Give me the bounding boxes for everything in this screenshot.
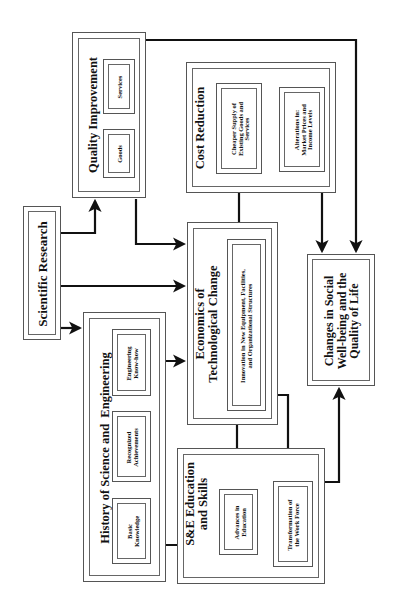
node-goods: Goods bbox=[103, 129, 135, 178]
node-quality-improvement: Quality Improvement Services Goods bbox=[72, 32, 146, 198]
goods-label: Goods bbox=[113, 130, 127, 179]
services-label: Services bbox=[113, 60, 127, 115]
node-alterations: Alterations in: Market Prices and Income… bbox=[279, 87, 325, 172]
advances-education-label: Advances in Education bbox=[221, 490, 260, 556]
node-engineering-knowhow: Engineering Know-how bbox=[112, 329, 151, 396]
node-se-education: S&E Education and Skills Advances in Edu… bbox=[177, 448, 325, 584]
node-economics: Economics of Technological Change Innova… bbox=[187, 222, 278, 425]
innovation-label: Innovation in New Equipment, Facilities,… bbox=[228, 240, 266, 412]
scientific-research-label: Scientific Research bbox=[32, 207, 54, 341]
node-basic-knowledge: Basic Knowledge bbox=[112, 498, 151, 564]
arrow-research-to-quality bbox=[61, 201, 95, 233]
cost-reduction-title: Cost Reduction bbox=[191, 63, 211, 194]
node-services: Services bbox=[103, 59, 135, 114]
cheaper-supply-label: Cheaper Supply of Existing Goods and Ser… bbox=[218, 84, 264, 175]
node-changes-wellbeing: Changes in Social Well-being and the Qua… bbox=[307, 254, 375, 386]
recognized-achievements-label: Recognized Achievements bbox=[113, 412, 152, 483]
node-cheaper-supply: Cheaper Supply of Existing Goods and Ser… bbox=[216, 83, 262, 174]
basic-knowledge-label: Basic Knowledge bbox=[114, 499, 153, 565]
arrow-se-to-changes bbox=[325, 389, 339, 482]
node-cost-reduction: Cost Reduction Cheaper Supply of Existin… bbox=[186, 62, 336, 193]
se-education-title: S&E Education and Skills bbox=[182, 449, 212, 559]
alterations-label: Alterations in: Market Prices and Income… bbox=[281, 88, 327, 173]
economics-title: Economics of Technological Change bbox=[189, 223, 225, 426]
node-advances-education: Advances in Education bbox=[219, 489, 258, 555]
arrow-quality-to-economics bbox=[136, 199, 184, 244]
node-transformation-workforce: Transformation of the Work Force bbox=[273, 481, 313, 567]
node-history: History of Science and Engineering Engin… bbox=[83, 312, 166, 582]
engineering-knowhow-label: Engineering Know-how bbox=[113, 330, 152, 397]
changes-wellbeing-label: Changes in Social Well-being and the Qua… bbox=[308, 255, 376, 387]
transformation-workforce-label: Transformation of the Work Force bbox=[274, 482, 314, 568]
node-recognized-achievements: Recognized Achievements bbox=[112, 411, 151, 482]
quality-improvement-title: Quality Improvement bbox=[84, 32, 104, 198]
node-innovation: Innovation in New Equipment, Facilities,… bbox=[227, 239, 266, 411]
node-scientific-research: Scientific Research bbox=[23, 206, 61, 340]
